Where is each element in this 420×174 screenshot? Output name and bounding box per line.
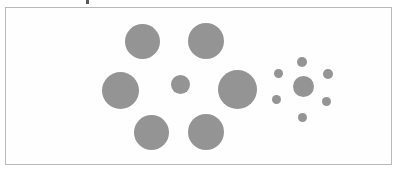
left-surround-bottom-right: [188, 114, 224, 150]
right-surround-upper-right: [323, 69, 333, 79]
right-center-disk: [293, 76, 314, 97]
scan-speck-artifact: [86, 0, 89, 4]
left-surround-left: [102, 72, 139, 109]
right-surround-top: [297, 57, 307, 67]
right-surround-lower-left: [272, 95, 281, 104]
figure-canvas: [6, 8, 391, 164]
left-center-disk: [171, 75, 190, 94]
left-surround-bottom-left: [134, 115, 169, 150]
right-surround-bottom: [298, 113, 307, 122]
screenshot-canvas: [0, 0, 420, 174]
right-surround-lower-right: [322, 97, 331, 106]
left-surround-top-right: [188, 23, 224, 59]
right-surround-upper-left: [274, 69, 283, 78]
figure-frame: [5, 7, 392, 165]
left-surround-right: [218, 70, 257, 109]
left-surround-top-left: [125, 24, 160, 59]
